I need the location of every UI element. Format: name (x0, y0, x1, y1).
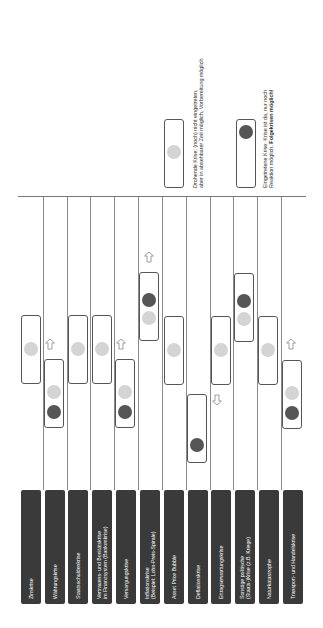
legend-occurred-text: Eingetretene Krise: Krise ist da, nur no… (262, 89, 275, 188)
occurred-dot (142, 293, 156, 307)
threatening-dot (71, 342, 85, 356)
status-box-waehrungskrise (44, 359, 64, 428)
arrow-left-icon (212, 394, 222, 406)
occurred-dot (190, 438, 204, 452)
arrow-right-icon (144, 251, 154, 263)
occurred-dot (237, 294, 251, 308)
threatening-dot (167, 343, 181, 357)
label-inflationskrise: Inflationskrise(Beispiel: Lohn-Preis-Spi… (140, 490, 160, 604)
label-deflationskrise: Deflationskrise (188, 490, 208, 604)
status-box-ertragserwartungskrise (211, 316, 231, 385)
legend-box-threatening (164, 119, 184, 188)
status-box-politische-krise (234, 273, 254, 342)
label-transportkrise: Transport- und Handelskrise (283, 490, 303, 604)
legend-occurred-dot (239, 125, 253, 139)
threatening-dot (261, 343, 275, 357)
threatening-dot (47, 385, 61, 399)
label-bankenkrise: Vertrauens- und Bonitätskriseim Finanzsy… (92, 490, 112, 604)
row-divider (162, 197, 163, 490)
status-box-zinskrise (21, 315, 41, 384)
occurred-dot (47, 405, 61, 419)
arrow-right-icon (286, 338, 296, 350)
label-ertragserwartungskrise: Ertragserwartungskrise (211, 490, 231, 604)
occurred-dot (118, 405, 132, 419)
status-box-bankenkrise (92, 315, 112, 384)
occurred-dot (285, 406, 299, 420)
label-waehrungskrise: Währungskrise (45, 490, 65, 604)
label-staatsschuldenkrise: Staatsschuldenkrise (68, 490, 88, 604)
legend-box-occurred (236, 119, 256, 188)
row-divider (90, 197, 91, 490)
threatening-dot (95, 342, 109, 356)
row-divider (233, 197, 234, 490)
threatening-dot (118, 385, 132, 399)
threatening-dot (214, 343, 228, 357)
baseline-divider (18, 196, 306, 197)
label-asset-price-bubble: Asset Price Bubble (164, 490, 184, 604)
label-naturkatastrophe: Naturkatastrophe (259, 490, 279, 604)
status-box-versorgungskrise (115, 359, 135, 428)
status-box-staatsschuldenkrise (68, 315, 88, 384)
row-divider (138, 197, 139, 490)
status-box-naturkatastrophe (258, 316, 278, 385)
crisis-cascade-diagram: Zinskrise Währungskrise Staatsschuldenkr… (0, 0, 323, 628)
threatening-dot (237, 312, 251, 326)
threatening-dot (142, 311, 156, 325)
status-box-transportkrise (282, 360, 302, 429)
row-divider (43, 197, 44, 490)
label-politische-krise: Sonstige politische(Staats-)Krise (z.B. … (235, 490, 255, 604)
label-versorgungskrise: Versorgungskrise (116, 490, 136, 604)
legend-threatening-dot (167, 145, 181, 159)
arrow-right-icon (116, 338, 126, 350)
row-divider (281, 197, 282, 490)
status-box-inflationskrise (139, 272, 159, 341)
threatening-dot (24, 342, 38, 356)
label-zinskrise: Zinskrise (21, 490, 41, 604)
status-box-deflationskrise (187, 394, 207, 463)
status-box-asset-price-bubble (164, 316, 184, 385)
arrow-right-icon (45, 338, 55, 350)
threatening-dot (285, 386, 299, 400)
row-divider (114, 197, 115, 490)
legend-threatening-text: Drohende Krise: (noch) nicht eingetreten… (192, 59, 205, 188)
